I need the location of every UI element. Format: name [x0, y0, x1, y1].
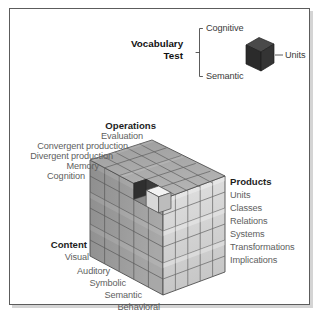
vocabulary-test-label: Vocabulary Test: [131, 38, 183, 61]
vocabulary-bracket: [196, 29, 203, 77]
operations-item-convergent-production: Convergent production: [37, 141, 128, 151]
products-item-transformations: Transformations: [230, 242, 295, 252]
products-item-units: Units: [230, 190, 250, 200]
callout-semantic-label: Semantic: [206, 71, 244, 81]
figure-root: Vocabulary Test Cognitive Semantic Units…: [0, 0, 328, 327]
content-item-visual: Visual: [65, 252, 89, 262]
content-item-semantic: Semantic: [105, 290, 143, 300]
content-item-behavioral: Behavioral: [118, 302, 160, 312]
products-item-classes: Classes: [230, 203, 262, 213]
content-item-auditory: Auditory: [77, 266, 110, 276]
callout-cognitive-label: Cognitive: [206, 23, 243, 33]
operations-item-memory: Memory: [66, 161, 99, 171]
operations-item-divergent-production: Divergent production: [30, 151, 113, 161]
content-heading: Content: [51, 240, 87, 250]
products-heading: Products: [230, 177, 272, 187]
operations-item-evaluation: Evaluation: [101, 131, 143, 141]
products-item-implications: Implications: [230, 255, 277, 265]
vocabulary-test-line1: Vocabulary: [131, 38, 183, 50]
content-item-symbolic: Symbolic: [90, 278, 126, 288]
operations-heading: Operations: [105, 121, 156, 131]
callout-units-label: Units: [285, 50, 305, 60]
units-cube: [246, 38, 274, 72]
products-item-systems: Systems: [230, 229, 265, 239]
vocabulary-test-line2: Test: [131, 50, 183, 62]
operations-item-cognition: Cognition: [47, 171, 85, 181]
products-item-relations: Relations: [230, 216, 267, 226]
